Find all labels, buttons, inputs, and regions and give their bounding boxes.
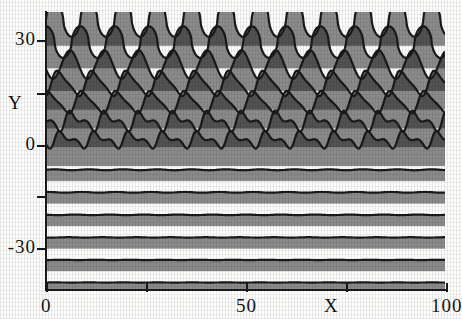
- trace-10: [46, 215, 445, 227]
- x-tick: [46, 283, 48, 292]
- y-tick: [37, 248, 46, 250]
- y-tick: [37, 145, 46, 147]
- x-axis-title: X: [324, 295, 338, 317]
- x-tick: [346, 283, 348, 292]
- plot-area: [46, 12, 445, 290]
- y-tick: [37, 40, 46, 42]
- y-tick-label: 0: [26, 133, 37, 155]
- x-tick-label: 100: [431, 295, 462, 317]
- trace-12: [46, 260, 445, 271]
- y-axis-title: Y: [8, 92, 22, 114]
- x-tick: [246, 283, 248, 292]
- trace-9: [46, 192, 445, 204]
- y-tick-label: 30: [15, 28, 36, 50]
- y-tick-label: -30: [8, 236, 36, 258]
- y-tick: [37, 196, 46, 198]
- x-tick-label: 50: [236, 295, 257, 317]
- figure-canvas: 300-30 050100 Y X: [0, 0, 462, 319]
- trace-8: [46, 169, 445, 181]
- trace-11: [46, 237, 445, 249]
- x-tick: [446, 283, 448, 292]
- x-tick-label: 0: [41, 295, 52, 317]
- trace-3: [46, 50, 445, 91]
- y-tick: [37, 93, 46, 95]
- waveform-traces: [46, 12, 445, 290]
- x-tick: [146, 283, 148, 292]
